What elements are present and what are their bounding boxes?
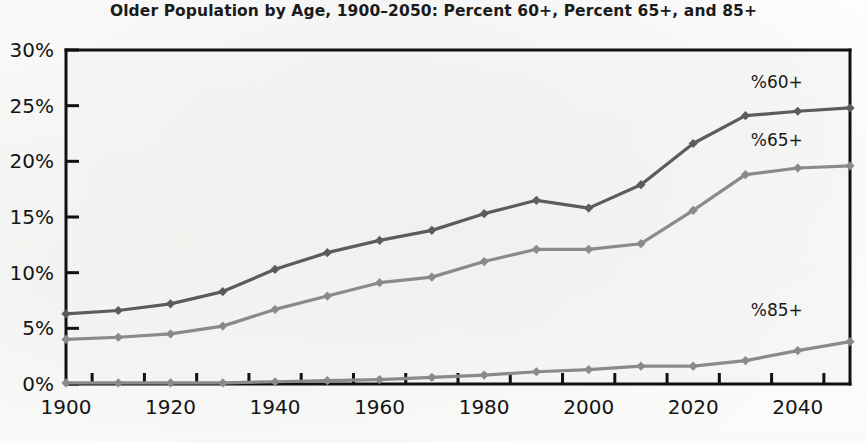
x-tick-label: 1900 <box>41 395 92 419</box>
series-label: %85+ <box>751 300 803 320</box>
x-tick-label: 2000 <box>563 395 614 419</box>
chart-figure: 0%5%10%15%20%25%30% 19001920194019601980… <box>0 0 867 443</box>
y-tick-label: 15% <box>10 205 54 229</box>
y-tick-label: 5% <box>22 316 54 340</box>
x-tick-label: 1980 <box>459 395 510 419</box>
series-label: %60+ <box>751 72 803 92</box>
y-tick-label: 20% <box>10 149 54 173</box>
y-tick-label: 0% <box>22 372 54 396</box>
x-tick-label: 1960 <box>354 395 405 419</box>
x-tick-label: 1940 <box>250 395 301 419</box>
y-tick-label: 25% <box>10 94 54 118</box>
y-tick-label: 10% <box>10 261 54 285</box>
plot-background <box>66 50 850 384</box>
x-tick-label: 2020 <box>668 395 719 419</box>
x-tick-label: 1920 <box>145 395 196 419</box>
x-tick-label: 2040 <box>772 395 823 419</box>
series-label: %65+ <box>751 130 803 150</box>
plot-area <box>66 50 850 384</box>
y-tick-label: 30% <box>10 38 54 62</box>
line-chart: 0%5%10%15%20%25%30% 19001920194019601980… <box>0 0 867 443</box>
